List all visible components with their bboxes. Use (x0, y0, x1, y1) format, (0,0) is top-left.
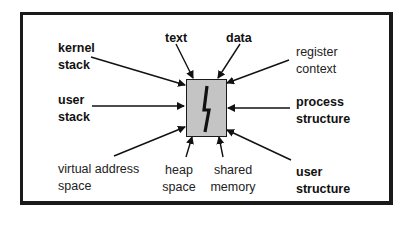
arrow-text (176, 44, 193, 78)
arrow-register-context (227, 60, 289, 83)
arrow-virtual-address-space (114, 127, 185, 156)
arrow-data (218, 44, 240, 78)
label-line: memory (210, 179, 256, 196)
label-line: space (58, 178, 139, 195)
arrow-shared-memory (219, 137, 223, 157)
label-line: structure (296, 111, 350, 128)
label-text: text (165, 30, 187, 47)
label-line: virtual address (58, 161, 139, 178)
process-box (186, 79, 227, 137)
lightning-bolt-icon (187, 80, 226, 136)
label-line: register (296, 44, 338, 61)
label-line: user (58, 92, 90, 109)
label-line: space (162, 179, 196, 196)
label-register-context: register context (296, 44, 338, 78)
label-line: stack (58, 57, 95, 74)
arrow-kernel-stack (91, 57, 185, 85)
label-line: kernel (58, 40, 95, 57)
label-kernel-stack: kernel stack (58, 40, 95, 74)
label-user-stack: user stack (58, 92, 90, 126)
arrow-user-structure (227, 130, 291, 160)
label-line: process (296, 94, 350, 111)
label-virtual-address-space: virtual address space (58, 161, 139, 195)
label-line: structure (296, 181, 350, 198)
label-heap-space: heap space (162, 162, 196, 196)
label-shared-memory: shared memory (210, 162, 256, 196)
label-line: shared (210, 162, 256, 179)
arrow-heap-space (186, 137, 192, 157)
label-line: stack (58, 109, 90, 126)
label-line: user (296, 164, 350, 181)
label-line: heap (162, 162, 196, 179)
label-line: context (296, 61, 338, 78)
label-process-structure: process structure (296, 94, 350, 128)
label-user-structure: user structure (296, 164, 350, 198)
label-data: data (226, 30, 252, 47)
